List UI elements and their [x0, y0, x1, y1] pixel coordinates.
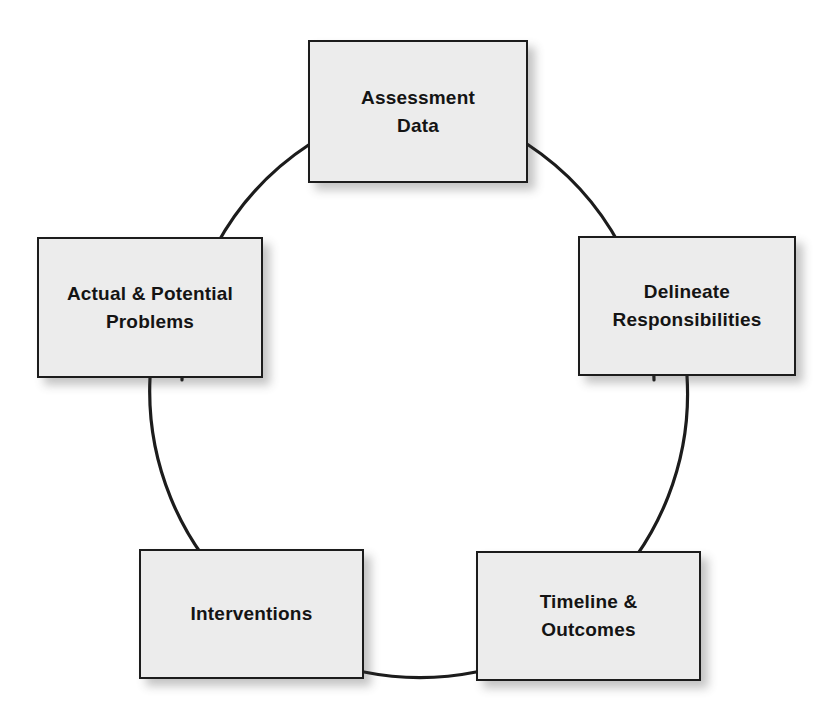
- node-actual-potential-problems-label: Actual & Potential Problems: [57, 280, 243, 335]
- diagram-canvas: Assessment Data Delineate Responsibiliti…: [0, 0, 830, 726]
- node-interventions[interactable]: Interventions: [139, 549, 364, 679]
- node-timeline-outcomes[interactable]: Timeline & Outcomes: [476, 551, 701, 681]
- node-delineate-responsibilities-label: Delineate Responsibilities: [603, 278, 772, 333]
- node-assessment-data[interactable]: Assessment Data: [308, 40, 528, 183]
- node-assessment-data-label: Assessment Data: [351, 84, 485, 139]
- node-delineate-responsibilities[interactable]: Delineate Responsibilities: [578, 236, 796, 376]
- node-interventions-label: Interventions: [181, 600, 323, 628]
- node-timeline-outcomes-label: Timeline & Outcomes: [530, 588, 648, 643]
- node-actual-potential-problems[interactable]: Actual & Potential Problems: [37, 237, 263, 378]
- connector-timeline-to-interventions: [364, 672, 476, 678]
